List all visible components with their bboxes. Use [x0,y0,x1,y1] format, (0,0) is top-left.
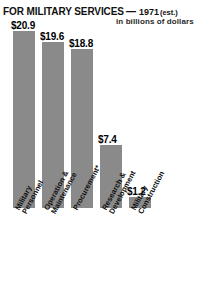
chart-container: FOR MILITARY SERVICES—1971(est.) in bill… [0,0,200,282]
title-main-text: FOR MILITARY SERVICES [3,6,124,17]
title-estimate-note: (est.) [159,8,178,17]
title-dash: — [124,6,137,17]
page-title: FOR MILITARY SERVICES—1971(est.) [3,1,199,14]
bar-value-label: $20.9 [11,20,35,31]
bar-value-label: $19.6 [40,31,64,42]
category-axis-labels: Military Personnel Operation & Maintenan… [0,208,200,282]
title-year: 1971 [137,7,159,17]
bar-value-label: $18.8 [69,38,93,49]
